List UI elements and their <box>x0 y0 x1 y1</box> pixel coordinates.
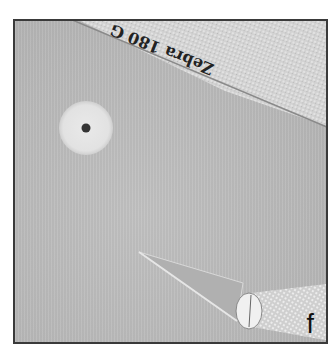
photo-panel: Zebra 180 G f <box>13 19 328 344</box>
hobby-knife <box>139 252 326 342</box>
emery-board: Zebra 180 G <box>70 21 326 129</box>
washer <box>59 101 113 155</box>
panel-label: f <box>306 311 314 338</box>
washer-hole <box>82 124 91 133</box>
photo-scene: Zebra 180 G <box>15 21 326 342</box>
